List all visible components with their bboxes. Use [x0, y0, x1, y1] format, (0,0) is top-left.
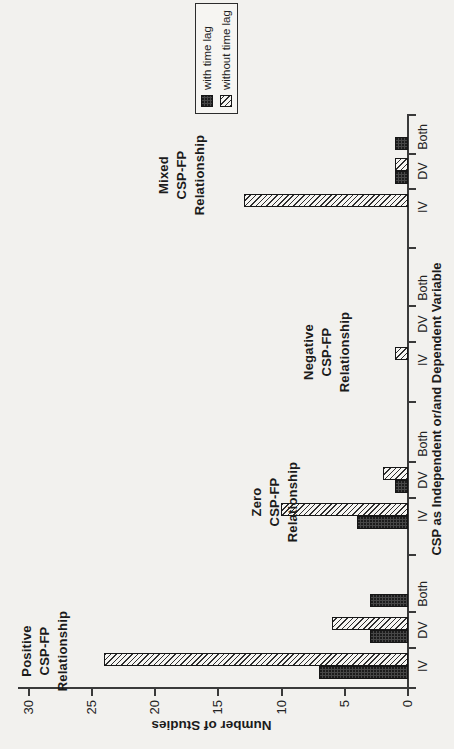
group-title-line: Relationship	[336, 277, 354, 427]
value-axis-tick-label: 5	[337, 700, 352, 732]
group-title: NegativeCSP-FPRelationship	[300, 277, 354, 427]
value-axis-tick-label: 15	[210, 700, 225, 732]
category-axis-tick	[409, 611, 416, 613]
category-axis-tick	[409, 305, 416, 307]
scanned-figure-page: Number of Studies CSP as Independent or/…	[0, 0, 454, 749]
category-axis-tick	[409, 687, 416, 689]
bar-without-time-lag	[395, 158, 408, 171]
group-title-line: CSP-FP	[173, 100, 191, 250]
category-axis-tick	[409, 247, 416, 249]
group-title-line: Relationship	[54, 576, 72, 726]
x-axis-title: CSP as Independent or/and Dependent Vari…	[429, 259, 444, 559]
bar-with-time-lag	[319, 666, 408, 679]
bar-without-time-lag	[104, 653, 408, 666]
bar-without-time-lag	[332, 617, 408, 630]
group-title: MixedCSP-FPRelationship	[155, 100, 209, 250]
category-label: Both	[416, 115, 430, 159]
value-axis-tick-label: 0	[400, 700, 415, 732]
rotated-bar-chart: Number of Studies CSP as Independent or/…	[0, 0, 454, 749]
bar-with-time-lag	[370, 630, 408, 643]
value-axis-tick	[217, 689, 219, 696]
value-axis-tick	[407, 689, 409, 696]
legend-label-with-time-lag: with time lag	[201, 26, 213, 90]
category-label: Both	[416, 266, 430, 310]
value-axis-tick	[91, 689, 93, 696]
category-label: Both	[416, 422, 430, 466]
bar-without-time-lag	[395, 347, 408, 360]
group-title-line: Relationship	[284, 427, 302, 577]
group-title-line: Mixed	[155, 100, 173, 250]
legend-item-without-time-lag: without time lag	[220, 10, 232, 107]
legend-item-with-time-lag: with time lag	[201, 10, 213, 107]
category-axis-tick	[409, 401, 416, 403]
category-axis-tick	[409, 341, 416, 343]
group-title: PositiveCSP-FPRelationship	[18, 576, 72, 726]
category-label: Both	[416, 572, 430, 616]
group-title-line: Relationship	[191, 100, 209, 250]
category-axis-tick	[409, 461, 416, 463]
group-title-line: Negative	[300, 277, 318, 427]
bar-with-time-lag	[395, 480, 408, 493]
group-title-line: Positive	[18, 576, 36, 726]
group-title-line: CSP-FP	[266, 427, 284, 577]
bar-with-time-lag	[370, 594, 408, 607]
bar-with-time-lag	[395, 171, 408, 184]
group-title-line: Zero	[248, 427, 266, 577]
bar-with-time-lag	[357, 516, 408, 529]
value-axis-tick-label: 10	[274, 700, 289, 732]
value-axis-tick-label: 25	[84, 700, 99, 732]
bar-with-time-lag	[395, 137, 408, 150]
group-title: ZeroCSP-FPRelationship	[248, 427, 302, 577]
category-axis-tick	[409, 554, 416, 556]
hatched-swatch-icon	[220, 95, 232, 107]
group-title-line: CSP-FP	[318, 277, 336, 427]
value-axis-tick	[281, 689, 283, 696]
category-axis-tick	[409, 114, 416, 116]
solid-dark-swatch-icon	[201, 95, 213, 107]
value-axis-tick-label: 20	[147, 700, 162, 732]
bar-without-time-lag	[383, 467, 408, 480]
category-axis-tick	[409, 497, 416, 499]
value-axis-tick	[344, 689, 346, 696]
legend-label-without-time-lag: without time lag	[220, 10, 232, 90]
bar-without-time-lag	[244, 194, 408, 207]
value-axis-tick	[154, 689, 156, 696]
group-title-line: CSP-FP	[36, 576, 54, 726]
category-axis-tick	[409, 153, 416, 155]
legend: with time lag without time lag	[195, 3, 238, 114]
category-axis-tick	[409, 647, 416, 649]
category-axis-tick	[409, 188, 416, 190]
